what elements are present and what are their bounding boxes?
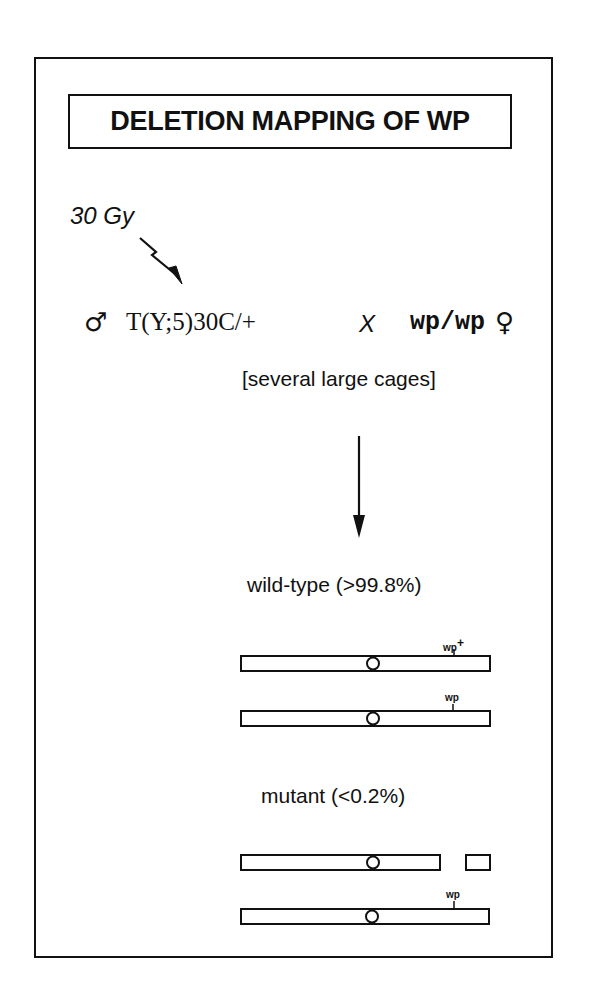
chromosome-wildtype-2: [241, 704, 490, 726]
cross-formula: ♂ T(Y;5)30C/+ X wp/wp ♀: [84, 305, 554, 345]
cages-note: [several large cages]: [242, 367, 436, 391]
female-symbol: ♀: [495, 307, 514, 337]
chromosome-mutant-deleted: [241, 855, 490, 870]
chromosome-mutant-2: [241, 901, 489, 924]
down-arrow-icon: [353, 436, 365, 538]
diagram-graphics: [0, 0, 590, 997]
marker-wp-mutant: wp: [446, 889, 460, 900]
cross-symbol: X: [359, 310, 375, 338]
superscript-plus: +: [457, 636, 464, 650]
male-genotype: T(Y;5)30C/+: [126, 308, 256, 336]
mutant-label: mutant (<0.2%): [261, 784, 405, 808]
female-genotype: wp/wp: [410, 308, 485, 337]
wild-type-label: wild-type (>99.8%): [247, 573, 422, 597]
male-symbol: ♂: [84, 307, 107, 337]
lightning-arrow-icon: [140, 238, 182, 284]
marker-wp-plus: wp+: [443, 636, 464, 653]
marker-wp: wp: [445, 692, 459, 703]
